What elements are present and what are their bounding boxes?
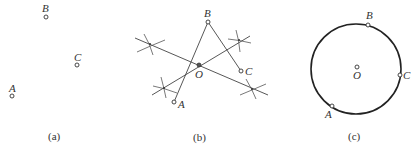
caption-b: (b)	[193, 131, 206, 144]
point-a	[10, 94, 14, 98]
caption-c: (c)	[348, 130, 361, 143]
label-a: A	[177, 98, 185, 110]
label-c: C	[245, 65, 253, 77]
label-b: B	[366, 9, 373, 21]
segment-bc	[208, 22, 241, 71]
point-b	[44, 15, 48, 19]
label-o: O	[353, 69, 361, 81]
circumcircle-construction-diagram: B C A (a)	[0, 0, 411, 155]
arc-marks-lower-right	[240, 79, 266, 99]
point-c	[75, 63, 79, 67]
panel-a: B C A (a)	[8, 2, 82, 143]
label-b: B	[42, 2, 49, 14]
label-b: B	[204, 7, 211, 19]
label-o: O	[195, 68, 203, 80]
arc-marks-upper-right	[228, 30, 251, 52]
label-c: C	[403, 69, 411, 81]
panel-c: B C A O (c)	[311, 9, 411, 143]
label-c: C	[74, 51, 82, 63]
label-a: A	[324, 108, 332, 120]
label-a: A	[8, 82, 16, 94]
caption-a: (a)	[48, 130, 61, 143]
point-b	[366, 23, 370, 27]
point-o	[197, 63, 201, 67]
point-b	[206, 20, 210, 24]
point-a	[172, 100, 176, 104]
panel-b: B C A O (b)	[135, 7, 268, 144]
point-c	[239, 69, 243, 73]
point-c	[398, 73, 402, 77]
